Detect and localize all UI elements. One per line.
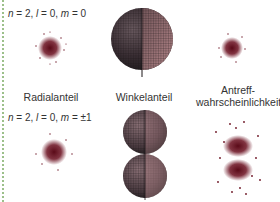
caption-probability: Antreff- wahrscheinlichkeit — [196, 84, 280, 108]
dotted-left-border — [2, 0, 4, 202]
caption-radial: Radialanteil — [16, 91, 86, 103]
radial-cloud-row2 — [32, 130, 76, 174]
row2-quantum-label: n = 2, l = 0, m = ±1 — [8, 112, 92, 123]
radial-cloud-row1 — [30, 28, 70, 68]
caption-probability-line1: Antreff- — [196, 84, 280, 96]
angular-sphere-row1 — [108, 3, 176, 79]
caption-angular: Winkelanteil — [112, 91, 176, 103]
row1-quantum-label: n = 2, l = 0, m = 0 — [8, 8, 86, 19]
probability-double-cloud-row2 — [210, 118, 266, 198]
angular-dumbbell-row2 — [118, 108, 172, 202]
caption-probability-line2: wahrscheinlichkeit — [196, 96, 280, 108]
probability-cloud-row1 — [212, 28, 252, 68]
